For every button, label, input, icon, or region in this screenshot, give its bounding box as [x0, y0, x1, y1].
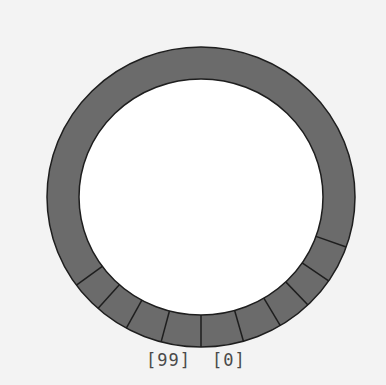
ring-inner-hole: [79, 79, 323, 315]
index-label-last: [99]: [146, 350, 191, 370]
circular-buffer-diagram: [0, 0, 386, 385]
index-label-first: [0]: [212, 350, 246, 370]
